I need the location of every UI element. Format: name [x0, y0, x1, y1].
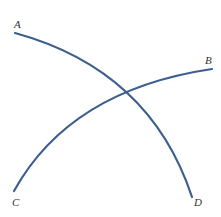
- label-a: A: [13, 18, 21, 30]
- arc-a-to-d: [15, 33, 192, 197]
- label-d: D: [193, 196, 202, 208]
- label-b: B: [205, 54, 212, 66]
- label-c: C: [12, 196, 20, 208]
- arcs-diagram: A B C D: [0, 0, 221, 217]
